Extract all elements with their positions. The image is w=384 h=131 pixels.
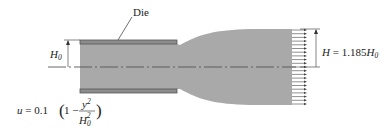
arrowhead-icon	[304, 44, 307, 46]
arrowhead-icon	[304, 33, 307, 35]
arrowhead-icon	[304, 95, 307, 97]
die-label: Die	[133, 6, 149, 18]
arrowhead-icon	[304, 77, 307, 79]
arrowhead-icon	[304, 47, 307, 49]
arrowhead-icon	[304, 81, 307, 83]
extrudate-swell-diagram: Die H0 H = 1.185H0 u = 0.1 ( 1 − y2 H02 …	[0, 0, 384, 131]
arrowhead-icon	[304, 51, 307, 53]
arrowhead-icon	[304, 99, 307, 101]
die-top-wall	[80, 40, 177, 44]
close-paren: )	[96, 101, 102, 120]
h0-arrowhead-icon	[66, 40, 70, 45]
outlet-height-label: H = 1.185H0	[321, 46, 378, 60]
denominator: H02	[78, 111, 91, 128]
one-minus: 1 −	[64, 104, 78, 116]
arrowhead-icon	[304, 73, 307, 75]
arrowhead-icon	[304, 103, 307, 105]
arrowhead-icon	[304, 88, 307, 90]
die-bottom-wall	[80, 89, 177, 93]
numerator: y2	[81, 97, 91, 110]
die-leader-line	[118, 17, 132, 40]
arrowhead-icon	[304, 58, 307, 60]
arrowhead-icon	[304, 36, 307, 38]
h-arrowhead-icon	[314, 29, 318, 34]
arrowhead-icon	[304, 62, 307, 64]
arrowhead-icon	[304, 84, 307, 86]
velocity-lhs: u = 0.1	[17, 104, 48, 116]
diagram-canvas: Die H0 H = 1.185H0 u = 0.1 ( 1 − y2 H02 …	[0, 0, 384, 131]
arrowhead-icon	[304, 40, 307, 42]
arrowhead-icon	[304, 70, 307, 72]
h0-label: H0	[49, 48, 62, 62]
velocity-equation: u = 0.1 ( 1 − y2 H02 )	[17, 97, 102, 128]
arrowhead-icon	[304, 55, 307, 57]
arrowhead-icon	[304, 92, 307, 94]
